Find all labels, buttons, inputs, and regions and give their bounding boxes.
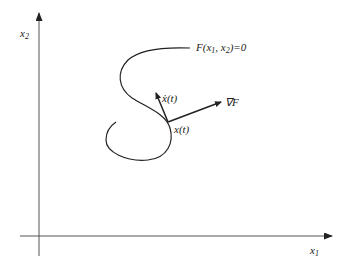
point-label: x(t) bbox=[174, 124, 189, 135]
velocity-label: ẋ(t) bbox=[162, 93, 177, 104]
level-curve bbox=[106, 48, 190, 160]
x-axis-label: x1 bbox=[310, 245, 319, 258]
gradient-label: ∇F bbox=[225, 97, 239, 108]
gradient-arrow bbox=[168, 102, 221, 122]
y-axis-label: x2 bbox=[20, 28, 29, 41]
curve-equation-label: F(x1, x2)=0 bbox=[196, 42, 246, 55]
